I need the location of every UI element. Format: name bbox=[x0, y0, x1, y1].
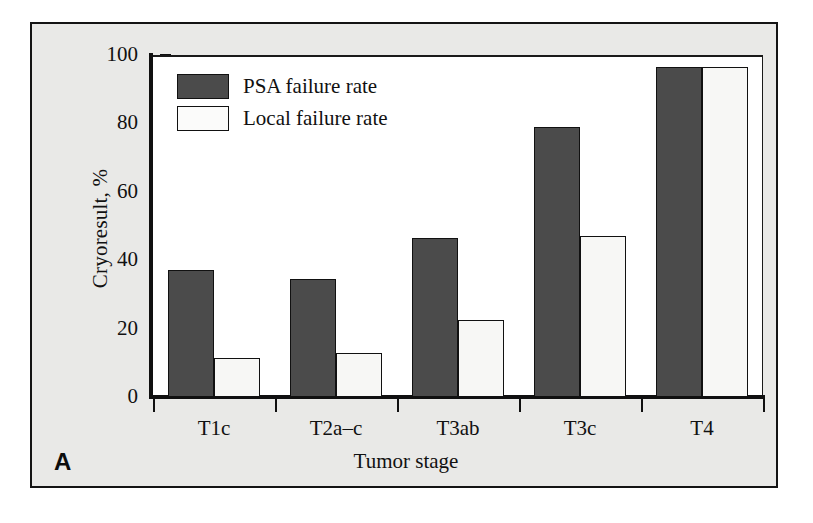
x-axis-tick bbox=[153, 399, 155, 412]
x-axis-category-label: T2a–c bbox=[275, 416, 397, 441]
legend-label-psa: PSA failure rate bbox=[243, 76, 377, 97]
figure-panel-a: Cryoresult, % 020406080100 T1cT2a–cT3abT… bbox=[0, 0, 813, 523]
x-axis-tick bbox=[763, 399, 765, 412]
x-axis-tick bbox=[641, 399, 643, 412]
x-axis-layer: T1cT2a–cT3abT3cT4 bbox=[32, 24, 780, 490]
x-axis-tick bbox=[397, 399, 399, 412]
legend-swatch-local-icon bbox=[177, 106, 229, 131]
x-axis-category-label: T1c bbox=[153, 416, 275, 441]
x-axis-category-label: T3c bbox=[519, 416, 641, 441]
legend-item-psa: PSA failure rate bbox=[177, 71, 388, 101]
legend-label-local: Local failure rate bbox=[243, 108, 388, 129]
legend-item-local: Local failure rate bbox=[177, 103, 388, 133]
x-axis-category-label: T4 bbox=[641, 416, 763, 441]
chart-legend: PSA failure rate Local failure rate bbox=[177, 71, 388, 135]
x-axis-tick bbox=[275, 399, 277, 412]
x-axis-category-label: T3ab bbox=[397, 416, 519, 441]
x-axis-title: Tumor stage bbox=[32, 449, 780, 474]
chart-panel: Cryoresult, % 020406080100 T1cT2a–cT3abT… bbox=[30, 22, 778, 488]
x-axis-tick bbox=[519, 399, 521, 412]
legend-swatch-psa-icon bbox=[177, 74, 229, 99]
panel-letter: A bbox=[54, 448, 71, 476]
